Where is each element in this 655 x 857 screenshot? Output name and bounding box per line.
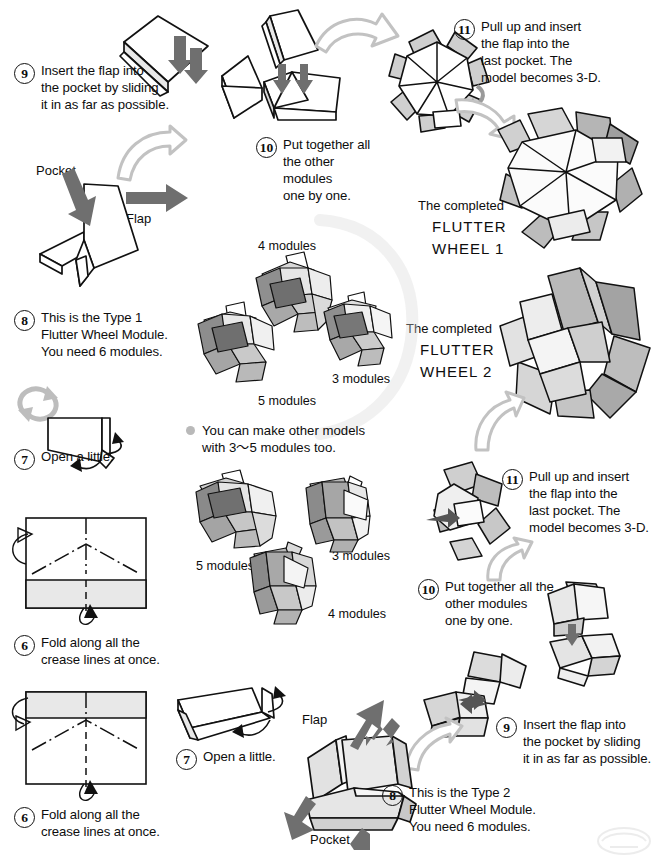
step-text: Insert the flap into the pocket by slidi… — [41, 62, 169, 113]
step-8-right: 8 This is the Type 2 Flutter Wheel Modul… — [382, 784, 552, 835]
step-text: Fold along all the crease lines at once. — [41, 806, 160, 840]
step-11-top: 11 Pull up and insert the flap into the … — [454, 18, 650, 87]
step-6-lower: 6 Fold along all the crease lines at onc… — [14, 806, 214, 840]
diagram-type1-module — [22, 176, 212, 296]
step-number: 6 — [14, 635, 35, 656]
pocket-arrow-bottom — [276, 796, 322, 856]
step-number: 6 — [14, 807, 35, 828]
step-number: 7 — [176, 749, 197, 770]
step-6-upper: 6 Fold along all the crease lines at onc… — [14, 634, 214, 668]
step-number: 9 — [496, 717, 517, 738]
step-text: Pull up and insert the flap into the las… — [481, 18, 601, 87]
step-number: 7 — [14, 449, 35, 470]
diagram-step7-bottom — [176, 684, 296, 756]
step-8-left: 8 This is the Type 1 Flutter Wheel Modul… — [14, 309, 214, 360]
flap-arrow — [126, 184, 188, 212]
step-number: 10 — [256, 137, 277, 158]
model-5-modules-g1 — [196, 300, 296, 396]
completed-name-line2: WHEEL 1 — [418, 238, 507, 260]
step-9-left: 9 Insert the flap into the pocket by sli… — [14, 62, 202, 113]
step-7-bottom: 7 Open a little. — [176, 748, 326, 770]
step-number: 11 — [454, 19, 475, 40]
step-10-right: 10 Put together all the other modules on… — [418, 578, 558, 629]
note-other-models: You can make other models with 3～5 modul… — [186, 422, 401, 457]
step-text: This is the Type 2 Flutter Wheel Module.… — [409, 784, 536, 835]
step-text: Put together all the other modules one b… — [445, 578, 554, 629]
step-11-right: 11 Pull up and insert the flap into the … — [502, 468, 652, 537]
step-10-mid: 10 Put together all the other modules on… — [256, 136, 386, 205]
completed-wheel-1: The completed FLUTTER WHEEL 1 — [418, 197, 507, 259]
bullet-dot-icon — [186, 426, 195, 435]
hollow-swirl-arrow-middle — [300, 214, 430, 444]
hollow-arrow-up-right-2 — [480, 538, 538, 582]
flap-arrow-bottom — [340, 698, 394, 750]
step-9-right: 9 Insert the flap into the pocket by sli… — [496, 716, 654, 767]
completed-name-line1: FLUTTER — [418, 216, 507, 238]
hollow-arrow-up-right — [466, 392, 526, 454]
step-number: 8 — [14, 310, 35, 331]
diagram-step6-upper — [6, 512, 172, 622]
step-text: Fold along all the crease lines at once. — [41, 634, 160, 668]
note-text: You can make other models with 3～5 modul… — [202, 422, 365, 457]
watermark-logo — [590, 811, 652, 855]
step-text: Open a little. — [203, 748, 276, 765]
hollow-arrow-up-left — [112, 126, 192, 182]
step-number: 8 — [382, 785, 403, 806]
model-flutter-wheel-1 — [492, 108, 652, 258]
model-4-modules-g2 — [246, 540, 336, 630]
step-text: Pull up and insert the flap into the las… — [529, 468, 649, 537]
step-text: Put together all the other modules one b… — [283, 136, 386, 205]
step-text: This is the Type 1 Flutter Wheel Module.… — [41, 309, 168, 360]
caption-4-modules-g2: 4 modules — [328, 606, 386, 622]
pocket-arrow — [350, 828, 370, 850]
step-number: 9 — [14, 63, 35, 84]
step-number: 11 — [502, 469, 523, 490]
step-text: Open a little. — [41, 448, 114, 465]
diagram-step6-lower — [6, 686, 172, 798]
step-text: Insert the flap into the pocket by slidi… — [523, 716, 651, 767]
completed-prefix: The completed — [418, 198, 504, 213]
instruction-page: 9 Insert the flap into the pocket by sli… — [0, 0, 655, 857]
step-number: 10 — [418, 579, 439, 600]
step-7-left: 7 Open a little. — [14, 448, 214, 470]
